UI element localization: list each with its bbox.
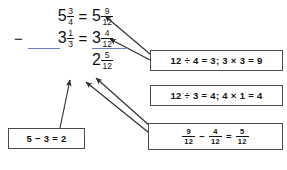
arrow-from-fraction-box-to-answer [86, 82, 148, 132]
callout-left-text: 5 − 3 = 2 [26, 133, 66, 144]
callout-fraction-a-numerator: 9 [182, 128, 195, 137]
callout-top-text: 12 ÷ 4 = 3; 3 × 3 = 9 [170, 55, 262, 66]
callout-fraction-equals: = [226, 131, 232, 142]
callout-fraction-b-numerator: 4 [209, 128, 222, 137]
arrow-from-left-box-to-answer-whole [60, 80, 70, 128]
callout-fraction-minus: − [199, 131, 205, 142]
arrow-to-answer-fraction [96, 78, 150, 126]
callout-fraction-result-numerator: 5 [236, 128, 249, 137]
callout-middle-text: 12 ÷ 3 = 4; 4 × 1 = 4 [170, 90, 262, 101]
callout-fraction-result: 5 12 [236, 128, 249, 146]
callout-fraction-a-denominator: 12 [182, 136, 195, 146]
callout-fraction-a: 9 12 [182, 128, 195, 146]
callout-box-middle: 12 ÷ 3 = 4; 4 × 1 = 4 [150, 85, 283, 106]
diagram-canvas: 5 3 4 = 5 9 12 − 3 1 3 [0, 0, 287, 170]
callout-fraction-result-denominator: 12 [236, 136, 249, 146]
callout-box-fraction-equation: 9 12 − 4 12 = 5 12 [148, 123, 283, 150]
callout-box-left: 5 − 3 = 2 [8, 128, 85, 149]
callout-fraction-b: 4 12 [209, 128, 222, 146]
callout-fraction-b-denominator: 12 [209, 136, 222, 146]
callout-box-top: 12 ÷ 4 = 3; 3 × 3 = 9 [150, 50, 283, 71]
